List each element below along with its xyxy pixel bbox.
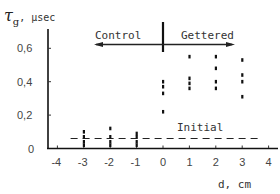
initial-annotation: Initial <box>71 121 258 138</box>
data-point <box>188 55 190 59</box>
data-point <box>136 143 138 147</box>
data-point <box>188 82 190 86</box>
y-tick-label: 0 <box>28 143 34 155</box>
data-point <box>109 135 111 139</box>
y-axis-unit: , μsec <box>19 12 55 23</box>
x-tick-label: 4 <box>266 156 272 168</box>
y-ticks: 00,20,40,6 <box>17 42 51 154</box>
gettered-annotation: Gettered <box>163 29 235 47</box>
data-point <box>162 92 164 96</box>
x-tick-label: 3 <box>239 156 245 168</box>
data-point <box>136 132 138 136</box>
data-point <box>162 80 164 84</box>
data-point <box>83 143 85 147</box>
data-point <box>215 87 217 91</box>
data-point <box>188 77 190 81</box>
chart: τg, μsec 00,20,40,6 -4-3-2-101234 d, cm … <box>0 0 280 194</box>
x-tick-label: -2 <box>104 156 114 168</box>
data-point <box>241 95 243 99</box>
x-axis-title: d, cm <box>218 178 251 191</box>
y-tick-label: 0,6 <box>17 42 32 54</box>
y-tick-label: 0,2 <box>17 109 32 121</box>
data-point <box>136 135 138 139</box>
x-tick-label: -1 <box>131 156 141 168</box>
data-point <box>109 127 111 131</box>
arrow-left-icon <box>94 42 103 47</box>
data-point <box>136 140 138 144</box>
data-point <box>188 87 190 91</box>
x-tick-label: 1 <box>186 156 192 168</box>
data-point <box>109 143 111 147</box>
x-tick-label: 0 <box>160 156 166 168</box>
data-point <box>215 80 217 84</box>
data-point <box>83 130 85 134</box>
control-annotation: Control <box>94 29 163 47</box>
y-tick-label: 0,4 <box>17 76 32 88</box>
x-tick-label: -4 <box>51 156 61 168</box>
initial-label: Initial <box>177 121 223 134</box>
data-point <box>83 135 85 139</box>
control-label: Control <box>95 29 141 42</box>
data-point <box>241 58 243 62</box>
data-point <box>241 73 243 77</box>
x-tick-label: 2 <box>213 156 219 168</box>
arrow-right-icon <box>226 42 235 47</box>
y-axis-title: τg, μsec <box>4 6 55 27</box>
data-point <box>241 80 243 84</box>
data-point <box>215 55 217 59</box>
data-point <box>162 85 164 89</box>
data-point <box>215 67 217 71</box>
data-point <box>83 140 85 144</box>
x-tick-label: -3 <box>78 156 88 168</box>
data-point <box>109 140 111 144</box>
gettered-label: Gettered <box>181 29 234 42</box>
data-point <box>162 110 164 114</box>
